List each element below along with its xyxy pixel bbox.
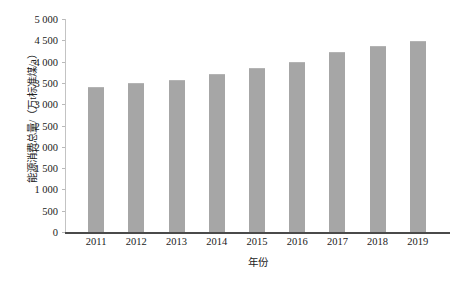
x-axis-tick-label: 2015 <box>246 236 267 247</box>
bar <box>329 52 345 232</box>
bar <box>169 80 185 232</box>
chart-figure: 能源消费总量/（万t标准煤/a） 5 0004 5004 0003 5003 0… <box>0 0 461 285</box>
bar <box>249 68 265 232</box>
x-axis-tick-label: 2017 <box>327 236 348 247</box>
x-axis-tick-label: 2013 <box>166 236 187 247</box>
y-axis-tick-label: 4 000 <box>34 56 58 67</box>
bar-slot <box>317 19 357 232</box>
bar-slot <box>116 19 156 232</box>
bar <box>289 62 305 232</box>
y-axis-tick-label: 3 500 <box>34 77 58 88</box>
y-axis-tick-label: 2 000 <box>34 141 58 152</box>
bar-slot <box>358 19 398 232</box>
bar-slot <box>76 19 116 232</box>
bar-slot <box>197 19 237 232</box>
y-axis-tick-label: 2 500 <box>34 120 58 131</box>
bar <box>209 74 225 232</box>
x-axis-tick-label-group: 201120122013201420152016201720182019 <box>66 236 450 252</box>
bar <box>410 41 426 232</box>
x-axis-tick-label: 2014 <box>206 236 227 247</box>
x-axis-tick-label: 2018 <box>367 236 388 247</box>
bar <box>128 83 144 232</box>
x-axis-tick-label: 2012 <box>126 236 147 247</box>
x-axis-tick-label: 2011 <box>86 236 107 247</box>
plot-area <box>66 19 450 232</box>
bar <box>88 87 104 232</box>
y-axis-tick-label-group: 5 0004 5004 0003 5003 0002 5002 0001 500… <box>20 19 58 232</box>
y-axis-tick-label: 1 500 <box>34 163 58 174</box>
x-axis-title: 年份 <box>66 254 450 269</box>
x-axis-tick-label: 2019 <box>407 236 428 247</box>
y-axis-tick-label: 1 000 <box>34 184 58 195</box>
x-axis-line <box>65 232 450 234</box>
y-axis-tick-label: 500 <box>42 205 58 216</box>
x-axis-tick-label: 2016 <box>287 236 308 247</box>
y-axis-tick-label: 3 000 <box>34 99 58 110</box>
bar-slot <box>156 19 196 232</box>
y-axis-tick-label: 4 500 <box>34 35 58 46</box>
bar <box>370 46 386 232</box>
bar-slot <box>277 19 317 232</box>
bar-slot <box>237 19 277 232</box>
y-axis-tick-label: 0 <box>53 227 58 238</box>
bar-slot <box>398 19 438 232</box>
y-axis-tick-label: 5 000 <box>34 14 58 25</box>
